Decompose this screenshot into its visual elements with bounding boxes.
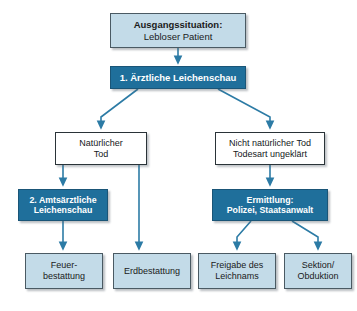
node-investigation: Ermittlung: Polizei, Staatsanwalt xyxy=(212,189,328,221)
node-natural-line1: Natürlicher xyxy=(79,138,123,149)
node-cremation-line2: bestattung xyxy=(43,271,85,282)
node-release-line1: Freigabe des xyxy=(211,260,264,271)
node-unnatural-death: Nicht natürlicher Tod Todesart ungeklärt xyxy=(215,132,325,165)
node-unnatural-line2: Todesart ungeklärt xyxy=(233,149,307,160)
node-start-line2: Lebloser Patient xyxy=(144,31,213,42)
node-natural-death: Natürlicher Tod xyxy=(55,132,147,165)
node-step2-line1: 2. Amtsärztliche xyxy=(29,195,96,205)
node-cremation: Feuer- bestattung xyxy=(25,253,103,289)
node-start-line1: Ausgangssituation: xyxy=(134,19,223,30)
node-unnatural-line1: Nicht natürlicher Tod xyxy=(229,138,311,149)
node-step2-official-examination: 2. Amtsärztliche Leichenschau xyxy=(18,189,108,221)
node-release-line2: Leichnams xyxy=(215,271,259,282)
node-investigation-line1: Ermittlung: xyxy=(247,195,294,205)
node-autopsy: Sektion/ Obduktion xyxy=(284,253,352,289)
node-autopsy-line2: Obduktion xyxy=(297,271,338,282)
node-release-of-body: Freigabe des Leichnams xyxy=(198,253,276,289)
node-cremation-line1: Feuer- xyxy=(51,260,78,271)
node-investigation-line2: Polizei, Staatsanwalt xyxy=(227,205,314,215)
node-autopsy-line1: Sektion/ xyxy=(302,260,335,271)
node-burial: Erdbestattung xyxy=(113,253,191,289)
node-start: Ausgangssituation: Lebloser Patient xyxy=(110,13,246,48)
connector-investigation-to-autopsy xyxy=(292,221,318,246)
node-step2-line2: Leichenschau xyxy=(34,205,93,215)
flowchart-diagram: Ausgangssituation: Lebloser Patient 1. Ä… xyxy=(0,0,357,311)
connector-step1-to-unnatural xyxy=(218,89,270,125)
node-step1-line1: 1. Ärztliche Leichenschau xyxy=(120,72,237,83)
connector-investigation-to-release xyxy=(237,221,251,246)
node-burial-line1: Erdbestattung xyxy=(124,266,180,277)
node-natural-line2: Tod xyxy=(94,149,109,160)
node-step1-medical-examination: 1. Ärztliche Leichenschau xyxy=(110,66,246,89)
connector-step1-to-natural xyxy=(101,89,138,125)
